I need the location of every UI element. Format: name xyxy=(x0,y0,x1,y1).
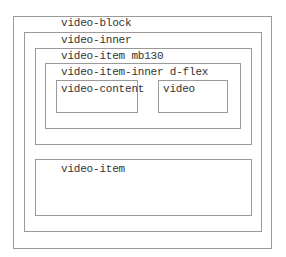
video-block-label: video-block xyxy=(61,17,131,29)
video-item-label: video-item mb130 xyxy=(61,50,163,62)
video-label: video xyxy=(163,83,195,95)
video-content-label: video-content xyxy=(61,83,144,95)
video-item-inner-label: video-item-inner d-flex xyxy=(61,66,208,78)
video-inner-label: video-inner xyxy=(61,34,131,46)
video-item-2-label: video-item xyxy=(61,163,125,175)
